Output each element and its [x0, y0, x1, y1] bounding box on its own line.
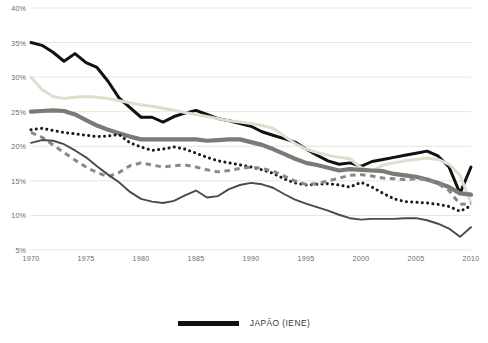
y-axis: 5%10%15%20%25%30%35%40% [0, 0, 31, 260]
x-axis-tick-label: 2005 [408, 254, 425, 263]
y-axis-tick-label: 20% [11, 142, 26, 151]
plot-area [31, 8, 471, 250]
x-axis-tick-label: 1985 [188, 254, 205, 263]
series-layer [31, 8, 471, 250]
x-axis-tick-label: 2010 [463, 254, 480, 263]
legend-entry-japao: JAPÃO (IENE) [178, 318, 310, 328]
x-axis-tick-label: 1995 [298, 254, 315, 263]
x-axis-tick-label: 1990 [243, 254, 260, 263]
x-axis-tick-label: 1975 [78, 254, 95, 263]
y-axis-tick-label: 40% [11, 4, 26, 13]
x-axis-tick-label: 1980 [133, 254, 150, 263]
y-axis-tick-label: 25% [11, 107, 26, 116]
legend-swatch-japao [178, 321, 239, 326]
y-axis-tick-label: 10% [11, 211, 26, 220]
y-axis-tick-label: 15% [11, 176, 26, 185]
x-axis: 197019751980198519901995200020052010 [31, 252, 471, 270]
legend-label-japao: JAPÃO (IENE) [250, 318, 310, 328]
x-axis-tick-label: 1970 [23, 254, 40, 263]
y-axis-tick-label: 30% [11, 73, 26, 82]
x-axis-tick-label: 2000 [353, 254, 370, 263]
chart-legend: JAPÃO (IENE) [0, 318, 488, 328]
y-axis-tick-label: 35% [11, 38, 26, 47]
chart-root: 5%10%15%20%25%30%35%40% 1970197519801985… [0, 0, 488, 343]
series-line [31, 43, 471, 194]
